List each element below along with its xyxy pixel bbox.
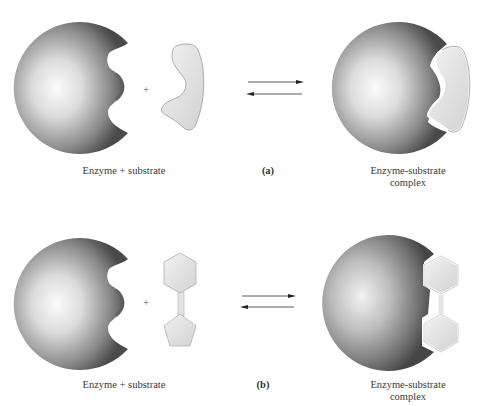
substrate-b bbox=[164, 253, 196, 346]
substrate-a bbox=[162, 44, 204, 130]
enzyme-substrate-diagram: + + bbox=[0, 0, 480, 406]
label-enzyme-substrate-a: Enzyme + substrate bbox=[74, 165, 174, 177]
label-complex-b: Enzyme-substrate complex bbox=[365, 379, 451, 403]
panel-b: + bbox=[14, 235, 458, 371]
equilibrium-arrows-a bbox=[246, 80, 304, 96]
label-enzyme-substrate-b: Enzyme + substrate bbox=[74, 379, 174, 391]
panel-label-a: (a) bbox=[258, 165, 278, 176]
substrate-bound-b bbox=[424, 256, 458, 352]
equilibrium-arrows-b bbox=[240, 294, 296, 309]
label-complex-b-line2: complex bbox=[365, 391, 451, 403]
enzyme-a bbox=[14, 22, 128, 154]
panel-label-b: (b) bbox=[253, 379, 273, 390]
enzyme-b bbox=[14, 238, 128, 370]
panel-a: + bbox=[14, 22, 470, 154]
label-complex-a: Enzyme-substrate complex bbox=[365, 165, 451, 189]
label-complex-b-line1: Enzyme-substrate bbox=[365, 379, 451, 391]
enzyme-complex-a bbox=[332, 22, 447, 154]
enzyme-complex-b bbox=[322, 235, 434, 371]
label-complex-a-line2: complex bbox=[365, 177, 451, 189]
plus-sign-b: + bbox=[143, 297, 149, 308]
plus-sign-a: + bbox=[143, 84, 149, 95]
label-complex-a-line1: Enzyme-substrate bbox=[365, 165, 451, 177]
